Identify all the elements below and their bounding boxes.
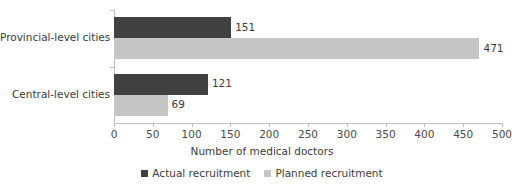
legend-swatch-icon: [264, 170, 271, 177]
x-tick-label: 200: [259, 128, 279, 140]
legend-item[interactable]: Planned recruitment: [264, 167, 382, 179]
x-tick: [114, 123, 115, 127]
legend-item[interactable]: Actual recruitment: [141, 167, 250, 179]
legend-swatch-icon: [141, 170, 148, 177]
bar: [114, 17, 231, 38]
x-tick: [153, 123, 154, 127]
x-tick: [192, 123, 193, 127]
bar-value-label: 471: [483, 42, 503, 54]
x-axis-title: Number of medical doctors: [0, 145, 524, 157]
x-tick-label: 50: [146, 128, 159, 140]
x-tick-label: 150: [220, 128, 240, 140]
x-tick: [386, 123, 387, 127]
bar-value-label: 121: [212, 77, 232, 89]
bar-value-label: 151: [235, 21, 255, 33]
x-tick-label: 400: [414, 128, 434, 140]
x-tick: [463, 123, 464, 127]
bar: [114, 74, 208, 95]
legend-label: Planned recruitment: [275, 167, 382, 179]
chart-legend: Actual recruitmentPlanned recruitment: [0, 167, 524, 179]
bar: [114, 38, 479, 59]
x-tick-label: 500: [492, 128, 512, 140]
category-label: Central-level cities: [0, 88, 110, 100]
bar: [114, 95, 168, 116]
x-tick-label: 350: [376, 128, 396, 140]
legend-label: Actual recruitment: [152, 167, 250, 179]
category-label: Provincial-level cities: [0, 31, 110, 43]
x-tick: [347, 123, 348, 127]
plot-area: 15147112169: [114, 10, 502, 123]
x-tick: [424, 123, 425, 127]
bar-value-label: 69: [172, 98, 185, 110]
x-tick-label: 300: [337, 128, 357, 140]
x-tick: [502, 123, 503, 127]
x-tick-label: 100: [182, 128, 202, 140]
x-tick: [230, 123, 231, 127]
bar-chart: 050100150200250300350400450500 Provincia…: [0, 0, 524, 191]
x-tick-label: 0: [111, 128, 118, 140]
x-tick-label: 250: [298, 128, 318, 140]
x-tick: [308, 123, 309, 127]
x-tick: [269, 123, 270, 127]
x-tick-label: 450: [453, 128, 473, 140]
